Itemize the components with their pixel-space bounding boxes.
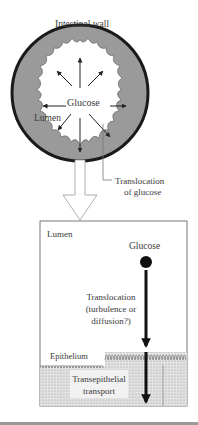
diagram-canvas: Intestinal wall Glucose Lumen Translocat…	[0, 0, 198, 425]
translocation-line3: diffusion?)	[91, 316, 130, 326]
magnified-panel: Lumen Glucose Translocation (turbulence …	[40, 221, 187, 406]
lumen-label-top: Lumen	[34, 113, 61, 123]
intestinal-wall-label: Intestinal wall	[55, 19, 109, 29]
zoom-arrow	[63, 160, 97, 220]
glucose-center-label: Glucose	[67, 97, 100, 108]
epithelium-label: Epithelium	[50, 351, 88, 361]
translocation-callout-line2: of glucose	[124, 187, 161, 197]
lumen-label-bottom: Lumen	[47, 229, 73, 239]
translocation-callout-line1: Translocation	[115, 176, 165, 186]
glucose-molecule	[140, 256, 152, 268]
translocation-line2: (turbulence or	[86, 304, 137, 314]
translocation-line1: Translocation	[86, 292, 136, 302]
intestine-cross-section: Intestinal wall Glucose Lumen	[12, 19, 148, 161]
transepithelial-line2: transport	[83, 386, 115, 396]
transepithelial-line1: Transepithelial	[72, 374, 126, 384]
glucose-label-bottom: Glucose	[129, 241, 160, 251]
